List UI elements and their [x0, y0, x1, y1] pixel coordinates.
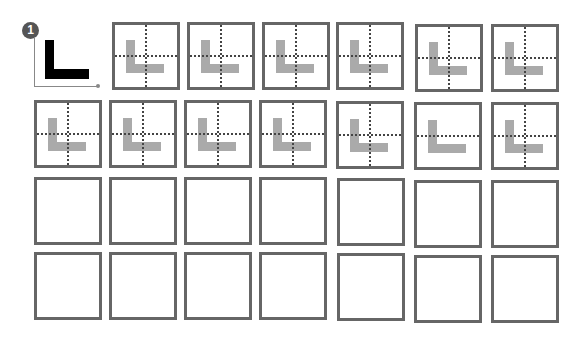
tracing-box[interactable] — [262, 22, 330, 90]
tracing-box[interactable] — [491, 24, 559, 92]
blank-writing-box[interactable] — [184, 252, 252, 320]
tracing-box[interactable] — [184, 100, 252, 168]
vertical-guide-line — [295, 25, 297, 87]
tracing-box[interactable] — [414, 102, 482, 170]
blank-writing-box[interactable] — [491, 180, 559, 248]
tracing-box[interactable] — [187, 22, 255, 90]
tracing-box[interactable] — [259, 100, 327, 168]
blank-writing-box[interactable] — [337, 253, 405, 321]
axis-arrow-tip — [96, 84, 100, 88]
vertical-guide-line — [220, 25, 222, 87]
tracing-box[interactable] — [336, 22, 404, 90]
tracing-box[interactable] — [336, 101, 404, 169]
tracing-box[interactable] — [112, 22, 180, 90]
vertical-guide-line — [217, 103, 219, 165]
blank-writing-box[interactable] — [259, 252, 327, 320]
letter-l-icon-foot — [45, 69, 89, 79]
blank-writing-box[interactable] — [259, 177, 327, 245]
number-badge-icon: 1 — [22, 22, 39, 39]
vertical-guide-line — [369, 104, 371, 166]
axis-arrow-icon — [34, 37, 35, 87]
vertical-guide-line — [145, 25, 147, 87]
vertical-guide-line — [292, 103, 294, 165]
vertical-guide-line — [142, 103, 144, 165]
blank-writing-box[interactable] — [184, 177, 252, 245]
blank-writing-box[interactable] — [109, 177, 177, 245]
blank-writing-box[interactable] — [491, 255, 559, 323]
blank-writing-box[interactable] — [337, 178, 405, 246]
example-letter-panel: 1 — [22, 22, 92, 92]
blank-writing-box[interactable] — [34, 177, 102, 245]
tracing-box[interactable] — [109, 100, 177, 168]
ghost-letter-l-foot — [428, 144, 466, 153]
blank-writing-box[interactable] — [414, 255, 482, 323]
vertical-guide-line — [67, 103, 69, 165]
blank-writing-box[interactable] — [414, 180, 482, 248]
vertical-guide-line — [448, 27, 450, 89]
tracing-box[interactable] — [34, 100, 102, 168]
vertical-guide-line — [524, 27, 526, 89]
blank-writing-box[interactable] — [34, 252, 102, 320]
tracing-box[interactable] — [415, 24, 483, 92]
horizontal-guide-line — [417, 135, 479, 137]
vertical-guide-line — [369, 25, 371, 87]
axis-arrow-icon-horizontal — [34, 86, 98, 87]
tracing-box[interactable] — [491, 102, 559, 170]
blank-writing-box[interactable] — [109, 252, 177, 320]
vertical-guide-line — [524, 105, 526, 167]
